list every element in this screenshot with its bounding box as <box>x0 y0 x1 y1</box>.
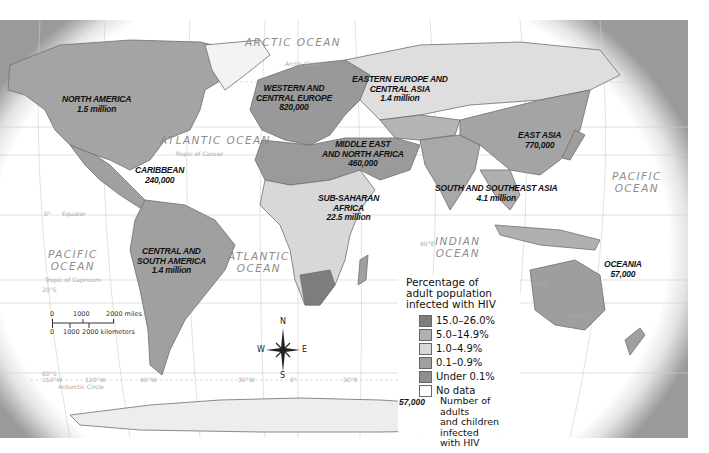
legend-item: 5.0–14.9% <box>419 328 489 341</box>
new-zealand <box>625 328 645 355</box>
compass-e: E <box>302 345 307 354</box>
label-arctic-ocean: ARCTIC OCEAN <box>245 36 341 48</box>
label-central-south-america: CENTRAL ANDSOUTH AMERICA1.4 million <box>137 247 206 276</box>
label-oceania: OCEANIA57,000 <box>604 260 642 279</box>
compass-rose: N S W E <box>258 320 308 380</box>
equator-name-label: Equator <box>62 210 86 217</box>
label-pacific-ocean-west: PACIFICOCEAN <box>48 248 98 272</box>
arctic-circle-label: Arctic Circle <box>285 60 321 67</box>
scale-ruler <box>52 319 116 328</box>
label-south-southeast-asia: SOUTH AND SOUTHEAST ASIA4.1 million <box>435 184 558 203</box>
lon-120e-label: 120°E <box>530 280 548 287</box>
label-sub-saharan-africa: SUB-SAHARANAFRICA22.5 million <box>318 194 379 223</box>
tropic-capricorn-label: Tropic of Capricorn <box>45 276 101 283</box>
legend-swatch <box>419 329 432 341</box>
lon-150w-label: 150°W <box>42 376 62 383</box>
compass-s: S <box>280 371 285 380</box>
equator-label: 0° <box>44 210 51 217</box>
tropic-cancer-label: Tropic of Cancer <box>175 150 223 157</box>
indonesia <box>495 225 600 250</box>
label-eastern-europe-central-asia: EASTERN EUROPE ANDCENTRAL ASIA1.4 millio… <box>352 75 448 104</box>
label-pacific-ocean-east: PACIFICOCEAN <box>612 170 662 194</box>
madagascar <box>358 255 368 285</box>
legend-swatch <box>419 315 432 327</box>
legend: Percentage of adult population infected … <box>398 275 520 437</box>
label-western-central-europe: WESTERN ANDCENTRAL EUROPE820,000 <box>256 84 332 113</box>
southern-africa <box>300 270 335 305</box>
south-america <box>130 200 235 375</box>
label-caribbean: CARIBBEAN240,000 <box>135 166 184 185</box>
legend-swatch <box>419 357 432 369</box>
legend-item: 0.1–0.9% <box>419 356 482 369</box>
legend-swatch <box>419 385 432 397</box>
australia <box>530 260 605 330</box>
legend-swatch <box>419 343 432 355</box>
lon-90w-label: 90°W <box>140 376 157 383</box>
legend-title: Percentage of adult population infected … <box>406 277 496 310</box>
legend-swatch <box>419 371 432 383</box>
label-atlantic-ocean-north: ATLANTIC OCEAN <box>160 134 271 146</box>
label-atlantic-ocean-south: ATLANTICOCEAN <box>228 250 290 274</box>
lon-30w-label: 30°W <box>238 376 255 383</box>
legend-item: Under 0.1% <box>419 370 495 383</box>
world-map: ARCTIC OCEAN ATLANTIC OCEAN ATLANTICOCEA… <box>0 20 688 438</box>
label-indian-ocean: INDIANOCEAN <box>435 235 481 259</box>
label-east-asia: EAST ASIA770,000 <box>518 131 561 150</box>
lon-150e-label: 150°E <box>568 312 586 319</box>
legend-item: 1.0–4.9% <box>419 342 482 355</box>
scale-bar: 0 1000 2000 miles 0 1000 2000 kilometers <box>48 310 168 340</box>
legend-item: 15.0–26.0% <box>419 314 495 327</box>
label-north-america: NORTH AMERICA1.5 million <box>62 95 131 114</box>
lon-90e-label: 90°E <box>420 240 434 247</box>
lon-120w-label: 120°W <box>85 376 105 383</box>
label-middle-east-north-africa: MIDDLE EASTAND NORTH AFRICA460,000 <box>322 140 404 169</box>
compass-w: W <box>257 345 265 354</box>
compass-n: N <box>280 317 286 326</box>
antarctic-circle-label: Antarctic Circle <box>58 383 104 390</box>
lon-30e-label: 30°E <box>343 376 357 383</box>
lat-20s-label: 20°S <box>42 286 56 293</box>
